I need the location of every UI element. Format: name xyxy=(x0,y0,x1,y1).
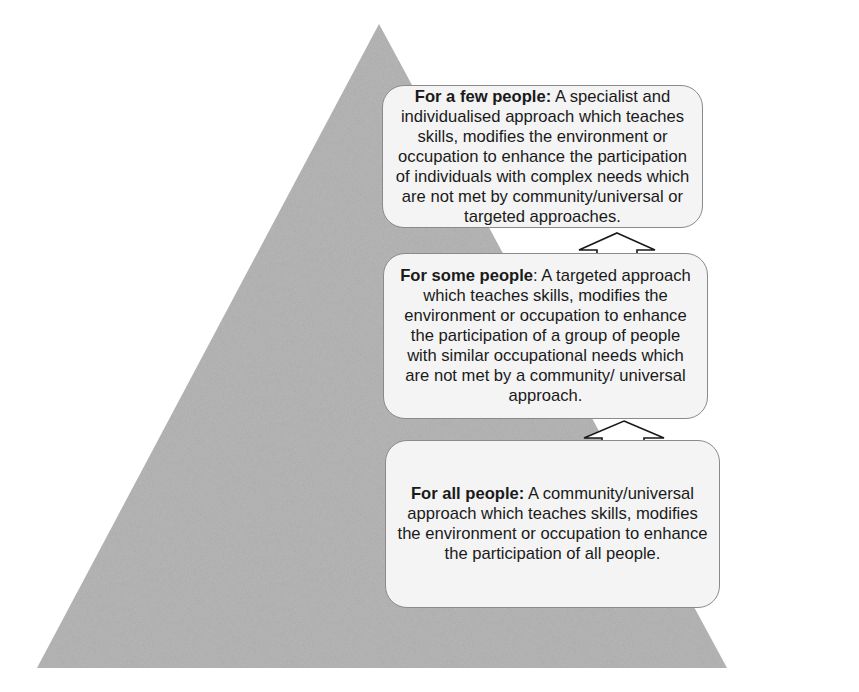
tier-text: For all people: A community/universal ap… xyxy=(396,484,709,564)
tier-heading: For a few people: xyxy=(415,87,551,106)
tier-heading: For all people: xyxy=(411,484,524,503)
tier-body: : A targeted approach which teaches skil… xyxy=(404,266,690,405)
tier-box-all-people: For all people: A community/universal ap… xyxy=(385,440,720,608)
tier-body: A specialist and individualised approach… xyxy=(396,87,689,226)
tier-text: For some people: A targeted approach whi… xyxy=(394,266,697,406)
tier-box-few-people: For a few people: A specialist and indiv… xyxy=(382,85,703,228)
tier-heading: For some people xyxy=(400,266,533,285)
tier-box-some-people: For some people: A targeted approach whi… xyxy=(383,253,708,419)
tier-text: For a few people: A specialist and indiv… xyxy=(393,87,692,227)
